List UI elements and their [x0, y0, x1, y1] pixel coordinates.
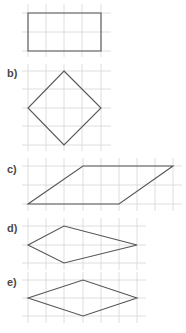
panel-a: [22, 4, 111, 57]
grid-b: [22, 64, 111, 151]
kite-shape: [28, 226, 137, 263]
shapes-figure: b)c)d)e): [0, 0, 186, 333]
panel-label-c: c): [7, 163, 17, 175]
panel-d: d): [7, 218, 146, 270]
panel-label-b: b): [7, 67, 18, 79]
grid-a: [22, 4, 111, 57]
panel-label-d: d): [7, 222, 18, 234]
panel-b: b): [7, 64, 111, 151]
panel-label-e: e): [7, 276, 17, 288]
panel-e: e): [7, 272, 146, 323]
panel-c: c): [7, 158, 182, 211]
grid-d: [22, 218, 146, 270]
